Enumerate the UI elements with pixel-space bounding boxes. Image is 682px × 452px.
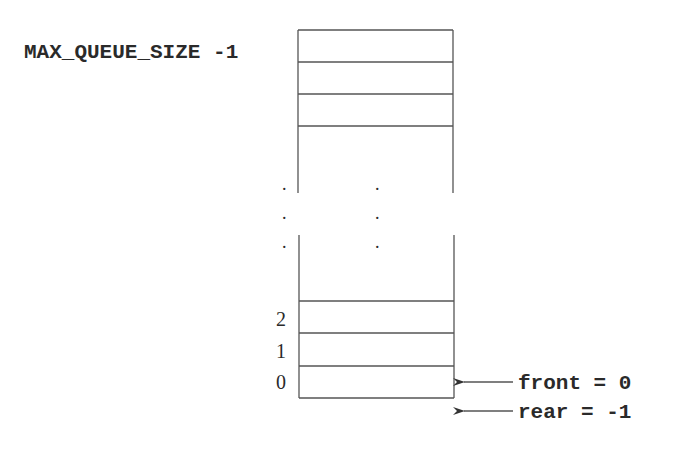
svg-text:.: . [375, 174, 380, 194]
array-top-cells [298, 30, 453, 193]
index-label-1: 1 [276, 340, 286, 362]
queue-diagram: MAX_QUEUE_SIZE -1 . . . . . . 2 1 0 fron… [0, 0, 682, 452]
rear-pointer-label: rear = -1 [518, 401, 631, 424]
front-pointer-label: front = 0 [518, 372, 631, 395]
index-label-0: 0 [276, 371, 286, 393]
svg-text:.: . [375, 232, 380, 252]
array-bottom-cells [299, 235, 454, 398]
svg-text:.: . [282, 174, 287, 194]
ellipsis: . . . . . . [282, 174, 380, 252]
svg-text:.: . [282, 203, 287, 223]
max-queue-size-label: MAX_QUEUE_SIZE -1 [24, 41, 238, 64]
index-label-2: 2 [276, 308, 286, 330]
svg-text:.: . [282, 232, 287, 252]
svg-text:.: . [375, 203, 380, 223]
